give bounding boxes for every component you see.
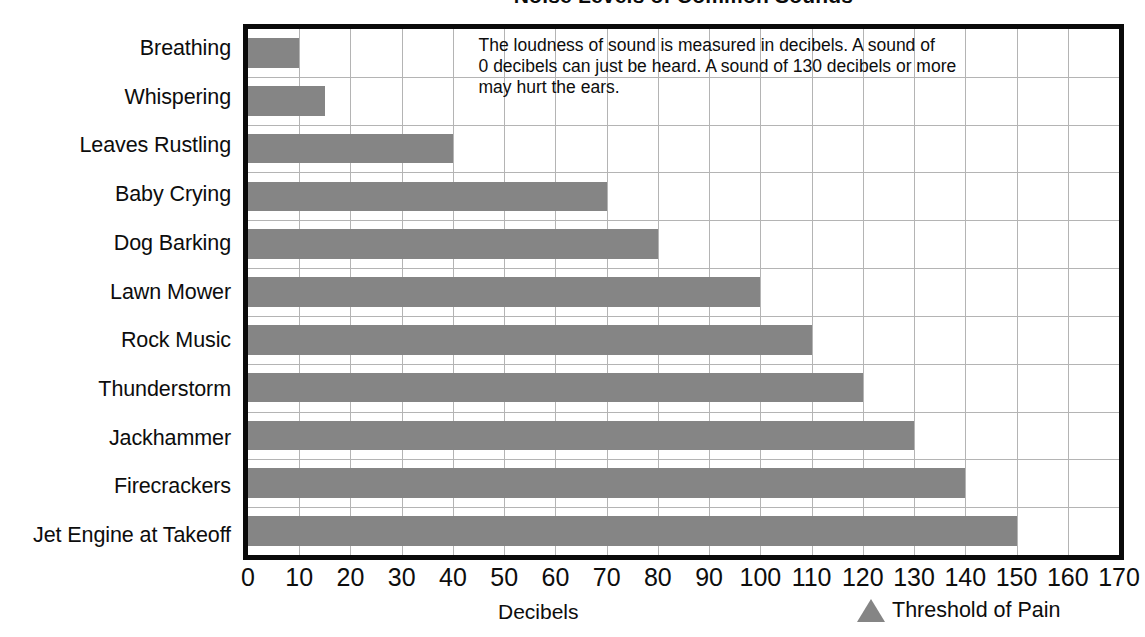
bar-row [248,516,1119,546]
info-note: The loudness of sound is measured in dec… [479,35,1119,98]
category-label: Rock Music [0,316,238,365]
bar [248,373,863,403]
x-tick-label: 90 [695,562,723,592]
bar [248,86,325,116]
legend: Threshold of Pain [857,598,1061,623]
bar [248,182,607,212]
category-label: Baby Crying [0,170,238,219]
x-tick-label: 0 [241,562,255,592]
category-label: Leaves Rustling [0,121,238,170]
x-tick-label: 170 [1098,562,1140,592]
x-tick-label: 160 [1047,562,1089,592]
x-tick-label: 70 [593,562,621,592]
bar-row [248,373,1119,403]
x-tick-label: 120 [842,562,884,592]
x-tick-label: 40 [439,562,467,592]
x-axis-ticks: 0102030405060708090100110120130140150160… [243,562,1124,596]
gridline-horizontal [248,507,1119,508]
noise-levels-bar-chart: Noise Levels of Common Sounds BreathingW… [0,0,1145,637]
bar [248,38,299,68]
x-tick-label: 150 [996,562,1038,592]
gridline-horizontal [248,172,1119,173]
category-label: Jet Engine at Takeoff [0,511,238,560]
gridline-horizontal [248,459,1119,460]
bar-row [248,229,1119,259]
bar [248,468,965,498]
bar [248,229,658,259]
x-tick-label: 110 [792,562,832,592]
threshold-of-pain-triangle-icon [857,599,885,622]
x-tick-label: 130 [893,562,935,592]
bar [248,421,914,451]
category-label: Thunderstorm [0,365,238,414]
info-note-line: 0 decibels can just be heard. A sound of… [479,56,1119,77]
bar-row [248,468,1119,498]
x-tick-label: 30 [388,562,416,592]
category-label: Lawn Mower [0,268,238,317]
chart-title: Noise Levels of Common Sounds [243,0,1124,6]
bar [248,277,760,307]
bar-row [248,134,1119,164]
x-tick-label: 50 [490,562,518,592]
gridline-horizontal [248,268,1119,269]
x-tick-label: 20 [337,562,365,592]
gridline-horizontal [248,364,1119,365]
category-label: Firecrackers [0,463,238,512]
bar [248,134,453,164]
bar-row [248,325,1119,355]
bar [248,516,1017,546]
category-label: Breathing [0,24,238,73]
x-tick-label: 10 [285,562,313,592]
legend-label: Threshold of Pain [892,598,1061,623]
bar-row [248,277,1119,307]
bar-row [248,182,1119,212]
gridline-horizontal [248,316,1119,317]
info-note-line: may hurt the ears. [479,77,1119,98]
category-label: Dog Barking [0,219,238,268]
x-tick-label: 60 [542,562,570,592]
category-label: Jackhammer [0,414,238,463]
x-tick-label: 100 [739,562,781,592]
bar-row [248,421,1119,451]
gridline-horizontal [248,125,1119,126]
bar [248,325,812,355]
category-label: Whispering [0,73,238,122]
x-axis-title: Decibels [498,600,579,624]
gridline-horizontal [248,412,1119,413]
category-axis: BreathingWhisperingLeaves RustlingBaby C… [0,24,238,560]
plot-area: The loudness of sound is measured in dec… [243,24,1124,560]
info-note-line: The loudness of sound is measured in dec… [479,35,1119,56]
plot-inner: The loudness of sound is measured in dec… [248,29,1119,555]
gridline-horizontal [248,220,1119,221]
x-tick-label: 140 [944,562,986,592]
x-tick-label: 80 [644,562,672,592]
